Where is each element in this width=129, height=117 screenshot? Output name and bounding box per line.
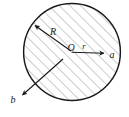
- label-b: b: [11, 94, 16, 105]
- circle-cross-section-diagram: O R r a b: [0, 0, 129, 117]
- label-a: a: [110, 49, 115, 60]
- center-label-O: O: [67, 42, 74, 53]
- label-r: r: [82, 41, 86, 51]
- figure-container: O R r a b: [0, 0, 129, 117]
- label-R: R: [49, 26, 56, 37]
